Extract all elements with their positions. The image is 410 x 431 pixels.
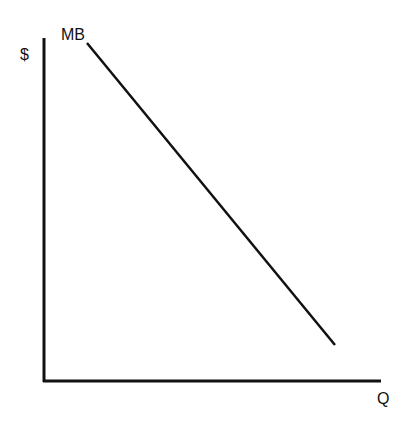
curve-label: MB xyxy=(61,26,85,43)
mb-curve xyxy=(87,43,335,345)
diagram-canvas: $ MB Q xyxy=(0,0,410,431)
mb-diagram: $ MB Q xyxy=(0,0,410,431)
x-axis-label: Q xyxy=(377,390,389,407)
y-axis-label: $ xyxy=(20,46,29,63)
